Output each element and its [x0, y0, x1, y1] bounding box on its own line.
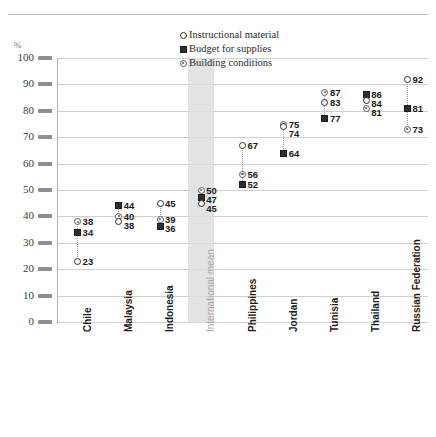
data-point-label: 45 [165, 198, 176, 209]
y-axis-tick-label: 40 [0, 209, 34, 221]
y-axis-tick [38, 56, 52, 60]
data-point-label: 77 [330, 113, 341, 124]
data-point-label: 36 [165, 223, 176, 234]
legend-dot-circle-icon [180, 60, 187, 67]
y-axis-tick-label: 80 [0, 104, 34, 116]
legend-item-label: Instructional material [189, 28, 279, 42]
legend-item-label: Building conditions [189, 56, 272, 70]
data-point-marker [239, 181, 246, 188]
y-axis-tick-label: 0 [0, 315, 34, 327]
y-axis-tick-label: 100 [0, 51, 34, 63]
legend-marker-icon [177, 32, 189, 39]
y-axis-line [57, 58, 58, 323]
y-axis-tick [38, 188, 52, 192]
data-point-label: 73 [412, 124, 423, 135]
legend-item[interactable]: Building conditions [177, 56, 279, 70]
y-axis-tick [38, 294, 52, 298]
data-point-marker [321, 89, 328, 96]
x-axis-category-label: Thailand [370, 291, 381, 332]
data-point-marker [239, 171, 246, 178]
y-axis-tick-label: 90 [0, 77, 34, 89]
data-point-marker [404, 126, 411, 133]
data-point-label: 83 [330, 97, 341, 108]
gridline [57, 84, 428, 85]
data-point-label: 34 [83, 227, 94, 238]
y-axis-tick [38, 82, 52, 86]
data-point-label: 45 [206, 203, 217, 214]
value-connector [242, 145, 243, 185]
data-point-marker [404, 105, 411, 112]
data-point-marker [321, 99, 328, 106]
data-point-marker [74, 229, 81, 236]
data-point-marker [157, 223, 164, 230]
data-point-marker [280, 123, 287, 130]
legend-item[interactable]: Instructional material [177, 28, 279, 42]
data-point-label: 67 [248, 140, 259, 151]
legend-square-icon [180, 46, 187, 53]
data-point-marker [74, 218, 81, 225]
gridline [57, 269, 428, 270]
gridline [57, 243, 428, 244]
data-point-label: 44 [124, 200, 135, 211]
y-axis-tick-label: 60 [0, 157, 34, 169]
x-axis-category-label: Indonesia [164, 285, 175, 332]
x-axis-category-label: Malaysia [123, 290, 134, 332]
x-axis-category-label: Tunisia [329, 298, 340, 332]
y-axis-tick [38, 109, 52, 113]
data-point-label: 38 [83, 216, 94, 227]
gridline [57, 137, 428, 138]
data-point-label: 23 [83, 256, 94, 267]
x-axis-category-label: Jordan [288, 299, 299, 332]
data-point-label: 56 [248, 169, 259, 180]
data-point-marker [115, 202, 122, 209]
data-point-label: 64 [289, 148, 300, 159]
value-connector [77, 222, 78, 262]
legend-marker-icon [177, 60, 189, 67]
y-axis-tick-label: 10 [0, 289, 34, 301]
y-axis-tick [38, 135, 52, 139]
data-point-label: 81 [371, 107, 382, 118]
y-axis-tick-label: 70 [0, 130, 34, 142]
data-point-marker [157, 216, 164, 223]
gridline [57, 216, 428, 217]
chart-container: % 01020304050607080901003834234440384539… [0, 0, 436, 437]
x-axis-category-label: Chile [82, 308, 93, 332]
data-point-marker [157, 200, 164, 207]
data-point-marker [363, 97, 370, 104]
data-point-marker [280, 150, 287, 157]
y-axis-tick [38, 267, 52, 271]
data-point-label: 87 [330, 87, 341, 98]
data-point-marker [74, 258, 81, 265]
legend-item-label: Budget for supplies [189, 42, 271, 56]
data-point-label: 74 [289, 128, 300, 139]
x-axis-category-label: International mean [205, 249, 216, 332]
chart-legend: Instructional materialBudget for supplie… [177, 28, 279, 70]
y-axis-tick [38, 241, 52, 245]
data-point-marker [363, 105, 370, 112]
data-point-marker [239, 142, 246, 149]
legend-open-circle-icon [180, 32, 187, 39]
x-axis-category-label: Philippines [247, 279, 258, 332]
legend-item[interactable]: Budget for supplies [177, 42, 279, 56]
data-point-marker [198, 200, 205, 207]
data-point-label: 92 [412, 74, 423, 85]
data-point-marker [115, 218, 122, 225]
data-point-marker [404, 76, 411, 83]
y-axis-tick-label: 30 [0, 236, 34, 248]
y-axis-tick [38, 320, 52, 324]
data-point-label: 38 [124, 220, 135, 231]
data-point-label: 52 [248, 179, 259, 190]
y-axis-tick-label: 20 [0, 262, 34, 274]
gridline [57, 190, 428, 191]
data-point-marker [321, 115, 328, 122]
y-axis-tick [38, 162, 52, 166]
y-axis-tick-label: 50 [0, 183, 34, 195]
y-axis-tick [38, 214, 52, 218]
data-point-label: 81 [412, 103, 423, 114]
data-point-marker [198, 187, 205, 194]
x-axis-category-label: Russian Federation [411, 239, 422, 332]
legend-marker-icon [177, 46, 189, 53]
